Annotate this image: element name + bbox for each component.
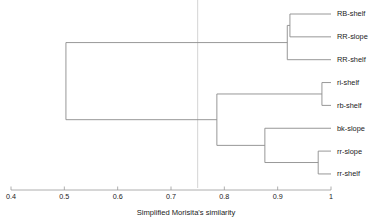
x-tick-label-3: 0.7 xyxy=(166,192,176,201)
x-tick-label-5: 0.9 xyxy=(273,192,283,201)
x-tick-label-4: 0.8 xyxy=(219,192,229,201)
leaf-label-rr-shelf: RR-shelf xyxy=(337,55,367,64)
leaf-label-rr-slope: rr-slope xyxy=(337,147,362,156)
x-tick-label-1: 0.5 xyxy=(59,192,69,201)
x-tick-label-2: 0.6 xyxy=(113,192,123,201)
x-tick-label-0: 0.4 xyxy=(6,192,16,201)
leaf-label-rb-shelf: rb-shelf xyxy=(337,101,363,110)
dendrogram-plot: RB-shelfRR-slopeRR-shelfri-shelfrb-shelf… xyxy=(0,0,373,221)
leaf-label-rr-shelf: rr-shelf xyxy=(337,169,361,178)
leaf-label-rr-slope: RR-slope xyxy=(337,32,368,41)
leaf-labels: RB-shelfRR-slopeRR-shelfri-shelfrb-shelf… xyxy=(337,9,368,178)
x-axis-title: Simplified Morisita's similarity xyxy=(137,208,236,217)
leaf-label-rb-shelf: RB-shelf xyxy=(337,9,366,18)
x-axis: 0.40.50.60.70.80.91 xyxy=(6,187,333,202)
leaf-label-bk-slope: bk-slope xyxy=(337,124,365,133)
x-tick-label-6: 1 xyxy=(329,192,333,201)
dendrogram-svg: RB-shelfRR-slopeRR-shelfri-shelfrb-shelf… xyxy=(0,0,373,221)
dendrogram-links xyxy=(66,14,331,174)
leaf-label-ri-shelf: ri-shelf xyxy=(337,78,360,87)
